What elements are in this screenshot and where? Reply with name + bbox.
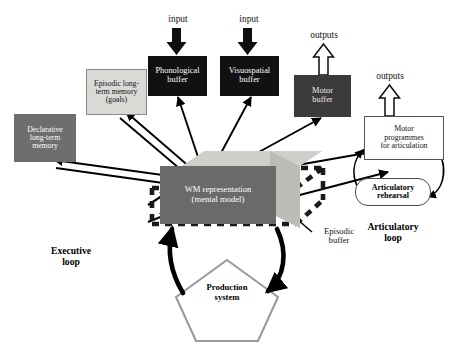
motor-programmes-box[interactable]: Motor programmes for articulation (364, 116, 444, 160)
articulatory-rehearsal-box[interactable]: Articulatory rehearsal (355, 178, 431, 206)
articulatory-rehearsal-label: Articulatory rehearsal (372, 184, 415, 201)
visuospatial-buffer-line2: buffer (229, 76, 270, 85)
wm-block-top-face (182, 151, 322, 166)
motor-programmes-label: Motor programmes for articulation (380, 125, 427, 150)
declarative-ltm-label: Declarative long-term memory (27, 126, 62, 150)
motor-buffer-label: Motor buffer (312, 87, 333, 105)
episodic-buffer-dash-edge-topright (296, 168, 323, 188)
visuospatial-buffer-box[interactable]: Visuospatial buffer (220, 56, 279, 96)
production-system-line2: system (181, 292, 273, 302)
wm-representation-label: WM representation (mental model) (185, 185, 252, 204)
episodic-ltm-label: Episodic long- term memory (goals) (94, 80, 139, 104)
declarative-long-term-memory-box[interactable]: Declarative long-term memory (14, 114, 76, 162)
episodic-buffer-dash-edge-bottomright (296, 200, 323, 224)
articulatory-loop-line2: loop (350, 233, 436, 244)
production-system-label: Production system (181, 282, 273, 303)
wm-representation-line2: (mental model) (185, 195, 252, 205)
phonological-buffer-box[interactable]: Phonological buffer (148, 56, 207, 96)
motor-buffer-line2: buffer (312, 96, 333, 105)
diagram-canvas: Phonological buffer Visuospatial buffer … (0, 0, 455, 351)
output-arrow-motor-buffer (314, 44, 334, 75)
phonological-buffer-label: Phonological buffer (155, 67, 199, 85)
output-arrow-motor-programmes (380, 85, 400, 116)
executive-loop-label: Executive loop (28, 246, 114, 267)
wm-representation-front-face[interactable]: WM representation (mental model) (160, 166, 276, 224)
input-label-right: input (223, 14, 275, 24)
production-system-line1: Production (181, 282, 273, 292)
motor-programmes-line3: for articulation (380, 142, 427, 150)
episodic-ltm-line3: (goals) (94, 96, 139, 104)
wm-representation-3d-block[interactable]: WM representation (mental model) (160, 166, 300, 228)
declarative-ltm-line3: memory (27, 142, 62, 150)
outputs-label-motor-buffer: outputs (297, 30, 351, 40)
visuospatial-buffer-label: Visuospatial buffer (229, 67, 270, 85)
input-arrow-visuospatial (238, 28, 258, 55)
input-arrow-phonological (167, 28, 187, 55)
articulatory-loop-label: Articulatory loop (350, 222, 436, 243)
phonological-buffer-line2: buffer (155, 76, 199, 85)
input-label-left: input (152, 14, 204, 24)
motor-buffer-box[interactable]: Motor buffer (294, 75, 351, 117)
articulatory-rehearsal-line2: rehearsal (372, 192, 415, 200)
outputs-label-motor-programmes: outputs (363, 71, 417, 81)
executive-loop-line2: loop (28, 257, 114, 268)
episodic-long-term-memory-box[interactable]: Episodic long- term memory (goals) (86, 69, 147, 115)
